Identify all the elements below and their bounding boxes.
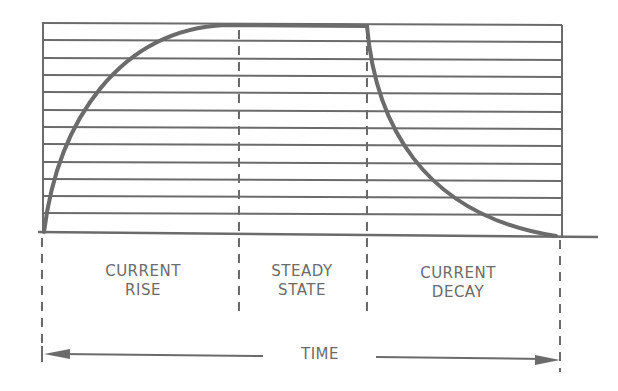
grid-lines [42,23,562,236]
phase-label-rise: CURRENT RISE [88,262,198,300]
phase-label-rise-line2: RISE [88,281,198,300]
phase-label-steady-line2: STATE [252,281,352,300]
phase-dividers [42,30,560,372]
phase-label-decay-line2: DECAY [403,283,513,302]
phase-label-decay: CURRENT DECAY [403,264,513,302]
current-phases-diagram [0,0,618,391]
baseline-axis [38,232,598,237]
current-curve [44,25,556,236]
phase-label-decay-line1: CURRENT [403,264,513,283]
phase-label-steady-line1: STEADY [252,262,352,281]
phase-label-steady: STEADY STATE [252,262,352,300]
time-axis-label: TIME [280,345,360,364]
phase-label-rise-line1: CURRENT [88,262,198,281]
